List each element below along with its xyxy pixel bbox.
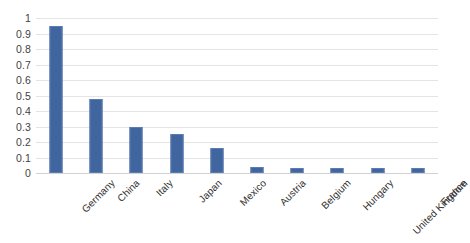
x-tick-label: Hungary — [361, 178, 396, 213]
bar-slot — [277, 18, 317, 173]
y-tick-label: 0.7 — [16, 59, 31, 70]
x-tick-label: Belgium — [320, 178, 353, 211]
x-tick-label: Mexico — [238, 178, 268, 208]
bar-slot — [237, 18, 277, 173]
bar — [210, 148, 223, 173]
x-tick-label: Japan — [197, 178, 224, 205]
bar-slot — [116, 18, 156, 173]
bar-slot — [76, 18, 116, 173]
y-tick-label: 0.2 — [16, 137, 31, 148]
bar-slot — [398, 18, 438, 173]
x-tick-label: Austria — [278, 178, 308, 208]
y-tick-label: 0.3 — [16, 121, 31, 132]
bar — [291, 168, 304, 173]
bar-slot — [157, 18, 197, 173]
x-axis: GermanyChinaItalyJapanMexicoAustriaBelgi… — [36, 176, 438, 243]
y-tick-label: 0.5 — [16, 90, 31, 101]
bar — [411, 168, 424, 173]
y-axis: 00.10.20.30.40.50.60.70.80.91 — [0, 0, 36, 243]
y-tick-label: 0.6 — [16, 75, 31, 86]
bar — [251, 167, 264, 173]
bars-layer — [36, 18, 438, 173]
bar-slot — [358, 18, 398, 173]
bar — [50, 26, 63, 173]
bar — [331, 168, 344, 173]
bar — [371, 168, 384, 173]
y-tick-label: 0 — [25, 168, 31, 179]
bar-slot — [197, 18, 237, 173]
x-tick-label: China — [116, 178, 142, 204]
bar-slot — [317, 18, 357, 173]
bar — [170, 134, 183, 173]
y-tick-label: 0.1 — [16, 152, 31, 163]
bar — [90, 99, 103, 173]
y-tick-label: 0.9 — [16, 28, 31, 39]
x-tick-label: France — [439, 178, 469, 208]
axis-baseline — [36, 173, 438, 174]
bar — [130, 127, 143, 174]
y-tick-label: 0.8 — [16, 44, 31, 55]
x-tick-label: Italy — [154, 178, 175, 199]
y-tick-label: 0.4 — [16, 106, 31, 117]
x-tick-label: Germany — [80, 178, 117, 215]
bar-slot — [36, 18, 76, 173]
y-tick-label: 1 — [25, 13, 31, 24]
